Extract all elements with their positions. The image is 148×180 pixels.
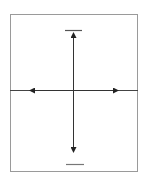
axis-diagram [0, 0, 148, 180]
